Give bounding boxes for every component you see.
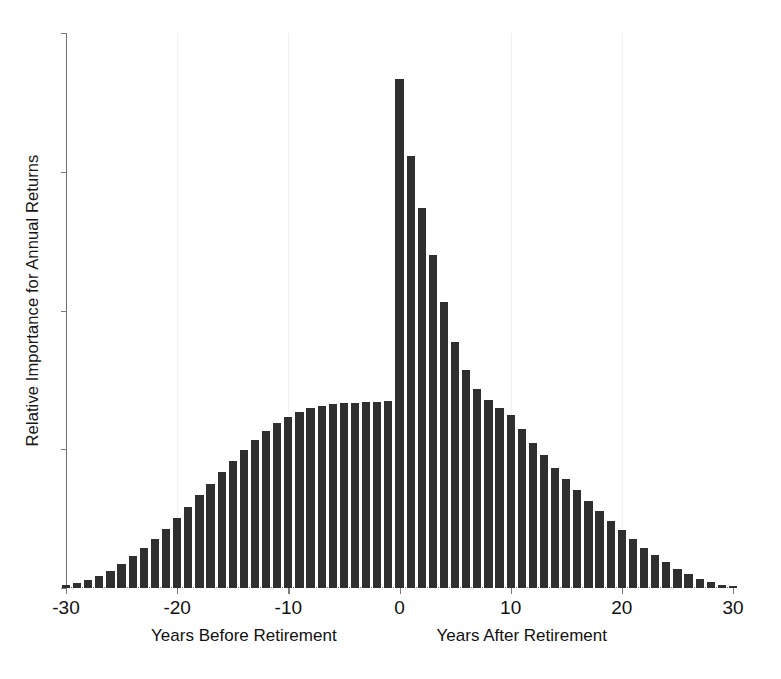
bar bbox=[272, 423, 282, 588]
x-axis-tick bbox=[66, 588, 67, 594]
bar bbox=[417, 208, 427, 588]
bar bbox=[583, 501, 593, 588]
x-axis-tick bbox=[733, 588, 734, 594]
bar bbox=[450, 342, 460, 588]
bar bbox=[83, 580, 93, 588]
bar bbox=[339, 403, 349, 588]
bar bbox=[183, 507, 193, 588]
bar bbox=[683, 574, 693, 588]
bar bbox=[317, 406, 327, 588]
x-axis-tick bbox=[511, 588, 512, 594]
bar bbox=[105, 571, 115, 588]
bar bbox=[228, 461, 238, 588]
bar bbox=[350, 403, 360, 588]
bar bbox=[361, 402, 371, 588]
bar bbox=[261, 431, 271, 588]
bar bbox=[239, 450, 249, 588]
bar bbox=[728, 586, 738, 588]
bar bbox=[94, 576, 104, 588]
bar bbox=[372, 402, 382, 588]
bar bbox=[428, 255, 438, 588]
bar bbox=[572, 490, 582, 588]
bar bbox=[394, 79, 404, 588]
bar bbox=[128, 556, 138, 588]
bar bbox=[706, 582, 716, 588]
bar bbox=[717, 585, 727, 588]
bar bbox=[406, 156, 416, 588]
bar bbox=[517, 429, 527, 588]
bar bbox=[494, 408, 504, 588]
bar bbox=[139, 548, 149, 588]
bar bbox=[650, 555, 660, 588]
bar bbox=[250, 440, 260, 588]
bar bbox=[461, 370, 471, 588]
bar bbox=[383, 401, 393, 588]
x-axis-tick-label: -10 bbox=[275, 597, 302, 619]
bar bbox=[439, 302, 449, 588]
bar bbox=[506, 415, 516, 588]
x-axis-tick bbox=[622, 588, 623, 594]
bar bbox=[550, 468, 560, 588]
bar bbox=[217, 472, 227, 588]
bar bbox=[695, 579, 705, 588]
bar bbox=[194, 495, 204, 588]
x-axis-tick-label: 20 bbox=[611, 597, 632, 619]
bar bbox=[661, 562, 671, 588]
bar bbox=[150, 539, 160, 588]
x-axis-tick-label: 10 bbox=[500, 597, 521, 619]
bar bbox=[172, 518, 182, 588]
bar bbox=[672, 569, 682, 588]
x-axis-sublabel: Years After Retirement bbox=[437, 626, 607, 646]
x-axis-tick bbox=[177, 588, 178, 594]
bar bbox=[639, 548, 649, 589]
x-axis-tick-label: -20 bbox=[163, 597, 190, 619]
bar bbox=[528, 443, 538, 588]
x-axis-tick-label: -30 bbox=[52, 597, 79, 619]
bar bbox=[61, 585, 71, 588]
bar bbox=[472, 389, 482, 588]
plot-area bbox=[66, 33, 733, 588]
y-axis-title-text: Relative Importance for Annual Returns bbox=[24, 154, 43, 446]
x-axis-sublabel: Years Before Retirement bbox=[151, 626, 337, 646]
bar bbox=[294, 412, 304, 588]
bar bbox=[305, 408, 315, 588]
y-axis-title: Relative Importance for Annual Returns bbox=[0, 0, 66, 600]
bar bbox=[539, 455, 549, 588]
bar bbox=[606, 521, 616, 588]
bar bbox=[116, 564, 126, 588]
bar-series bbox=[66, 33, 733, 588]
bar bbox=[328, 404, 338, 588]
bar bbox=[283, 417, 293, 588]
bar bbox=[483, 400, 493, 588]
bar bbox=[594, 511, 604, 588]
x-axis-tick bbox=[288, 588, 289, 594]
bar bbox=[561, 479, 571, 588]
bar bbox=[161, 529, 171, 588]
bar bbox=[617, 530, 627, 588]
chart-figure: Relative Importance for Annual Returns -… bbox=[0, 0, 781, 679]
x-axis-tick-label: 30 bbox=[722, 597, 743, 619]
bar bbox=[72, 583, 82, 588]
bar bbox=[205, 484, 215, 588]
bar bbox=[628, 539, 638, 588]
x-axis-tick bbox=[400, 588, 401, 594]
x-axis-tick-label: 0 bbox=[394, 597, 405, 619]
